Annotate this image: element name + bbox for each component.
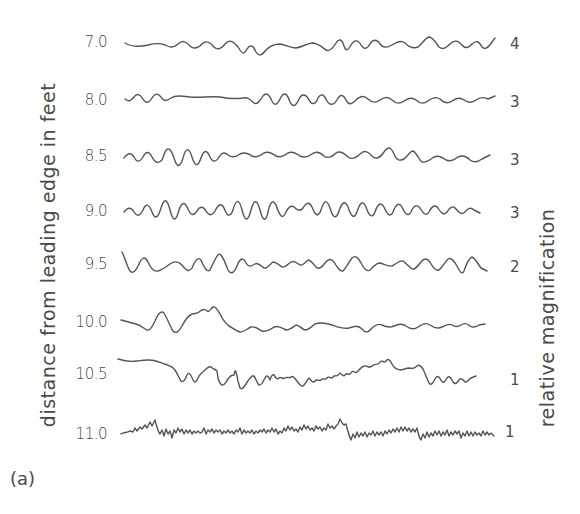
trace-10-5 xyxy=(118,359,476,389)
panel-label: (a) xyxy=(10,468,35,489)
trace-7-0 xyxy=(125,37,495,55)
waveform-figure: distance from leading edge in feet relat… xyxy=(0,0,580,514)
trace-11-0 xyxy=(121,419,494,440)
trace-10-0 xyxy=(121,307,485,333)
waveform-traces xyxy=(0,0,580,514)
trace-8-5 xyxy=(124,148,490,165)
trace-8-0 xyxy=(125,94,495,106)
trace-9-0 xyxy=(124,201,480,220)
trace-9-5 xyxy=(122,252,487,273)
